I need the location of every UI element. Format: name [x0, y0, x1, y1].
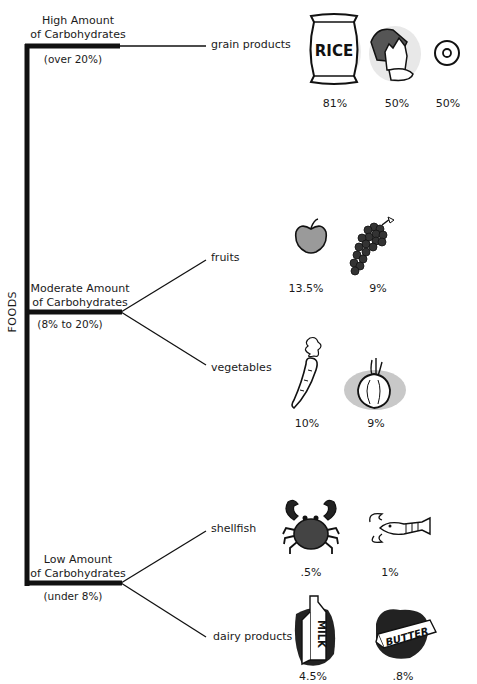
- group-label-vegetables: vegetables: [211, 361, 272, 374]
- cereal-ring-icon: [432, 38, 462, 68]
- category-title-line1: High Amount: [18, 14, 138, 28]
- percent-cereal: 50%: [423, 97, 473, 110]
- group-label-shellfish: shellfish: [211, 522, 256, 535]
- category-low-title: Low Amount of Carbohydrates: [18, 553, 138, 581]
- butter-icon: BUTTER: [370, 604, 446, 664]
- root-label-foods: FOODS: [6, 293, 19, 333]
- percent-butter: .8%: [378, 670, 428, 683]
- percent-lobster: 1%: [365, 566, 415, 579]
- group-label-fruits: fruits: [211, 251, 239, 264]
- lobster-icon: [364, 510, 434, 546]
- vegetables-branch: [121, 312, 206, 365]
- category-title-line1: Low Amount: [18, 553, 138, 567]
- category-high-range: (over 20%): [23, 53, 123, 65]
- percent-rice: 81%: [310, 97, 360, 110]
- percent-carrot: 10%: [282, 417, 332, 430]
- crab-icon: [280, 498, 342, 560]
- category-moderate-range: (8% to 20%): [20, 318, 120, 330]
- category-moderate-title: Moderate Amount of Carbohydrates: [20, 282, 140, 310]
- bread-icon: [367, 22, 423, 84]
- percent-apple: 13.5%: [281, 282, 331, 295]
- category-title-line2: of Carbohydrates: [18, 567, 138, 581]
- percent-bread: 50%: [372, 97, 422, 110]
- onion-icon: [342, 356, 408, 414]
- rice-bag-icon: RICE: [305, 10, 363, 88]
- category-high-title: High Amount of Carbohydrates: [18, 14, 138, 42]
- percent-grapes: 9%: [353, 282, 403, 295]
- apple-icon: [294, 218, 328, 256]
- category-title-line2: of Carbohydrates: [18, 28, 138, 42]
- percent-crab: .5%: [286, 566, 336, 579]
- milk-carton-icon: MILK: [294, 594, 338, 668]
- dairy-branch: [121, 583, 206, 637]
- svg-text:RICE: RICE: [315, 42, 353, 60]
- percent-milk: 4.5%: [288, 670, 338, 683]
- group-label-dairy-products: dairy products: [213, 630, 292, 643]
- carrot-icon: [290, 336, 332, 412]
- svg-text:MILK: MILK: [316, 620, 327, 649]
- category-low-range: (under 8%): [23, 590, 123, 602]
- percent-onion: 9%: [351, 417, 401, 430]
- category-title-line1: Moderate Amount: [20, 282, 140, 296]
- group-label-grain-products: grain products: [211, 38, 291, 51]
- category-title-line2: of Carbohydrates: [20, 296, 140, 310]
- grapes-icon: [348, 215, 398, 277]
